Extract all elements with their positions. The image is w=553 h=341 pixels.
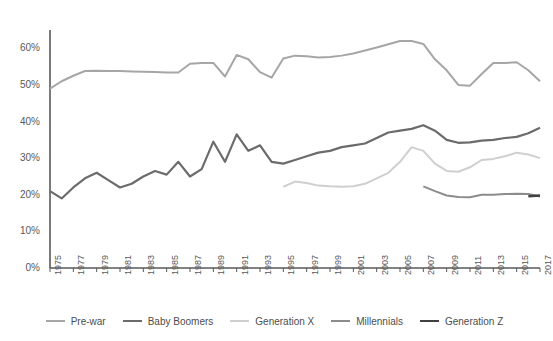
series-line: [50, 125, 540, 198]
x-tick-label: 2009: [451, 255, 460, 275]
x-tick-label: 1981: [124, 255, 133, 275]
x-tick-label: 2005: [404, 255, 413, 275]
x-tick-label: 1991: [241, 255, 250, 275]
x-tick-label: 1987: [194, 255, 203, 275]
x-tick-label: 1993: [264, 255, 273, 275]
x-tick-label: 1977: [77, 255, 86, 275]
x-tick-label: 1995: [287, 255, 296, 275]
x-tick-label: 2017: [544, 255, 553, 275]
legend-item[interactable]: Pre-war: [46, 316, 106, 327]
y-tick-label: 60%: [6, 43, 40, 53]
x-tick-label: 1983: [147, 255, 156, 275]
y-tick-label: 20%: [6, 190, 40, 200]
x-tick-label: 1999: [334, 255, 343, 275]
legend-swatch: [46, 320, 65, 322]
x-tick-label: 2003: [381, 255, 390, 275]
legend-swatch: [230, 320, 249, 322]
series-line: [50, 41, 540, 89]
series-line: [423, 186, 540, 197]
x-tick-label: 2001: [357, 255, 366, 275]
series-line: [528, 196, 540, 197]
series-lines: [50, 41, 540, 198]
legend-label: Baby Boomers: [148, 316, 214, 327]
y-tick-label: 30%: [6, 153, 40, 163]
y-tick-label: 10%: [6, 226, 40, 236]
y-tick-label: 50%: [6, 80, 40, 90]
legend-item[interactable]: Generation X: [230, 316, 314, 327]
legend-label: Millennials: [356, 316, 403, 327]
legend-item[interactable]: Baby Boomers: [123, 316, 214, 327]
legend-item[interactable]: Generation Z: [420, 316, 503, 327]
x-tick-label: 2013: [497, 255, 506, 275]
x-tick-label: 2007: [427, 255, 436, 275]
legend-item[interactable]: Millennials: [331, 316, 403, 327]
x-tick-label: 2015: [521, 255, 530, 275]
x-tick-label: 1989: [217, 255, 226, 275]
legend-label: Generation X: [255, 316, 314, 327]
x-tick-label: 1975: [54, 255, 63, 275]
y-tick-label: 40%: [6, 117, 40, 127]
y-tick-label: 0%: [6, 263, 40, 273]
x-tick-label: 1979: [101, 255, 110, 275]
x-tick-label: 1985: [171, 255, 180, 275]
chart-legend: Pre-warBaby BoomersGeneration XMillennia…: [0, 306, 549, 336]
legend-label: Pre-war: [71, 316, 106, 327]
legend-swatch: [331, 320, 350, 322]
legend-swatch: [123, 320, 142, 322]
x-tick-label: 2011: [474, 256, 483, 275]
legend-label: Generation Z: [445, 316, 503, 327]
x-tick-label: 1997: [311, 255, 320, 275]
legend-swatch: [420, 320, 439, 322]
